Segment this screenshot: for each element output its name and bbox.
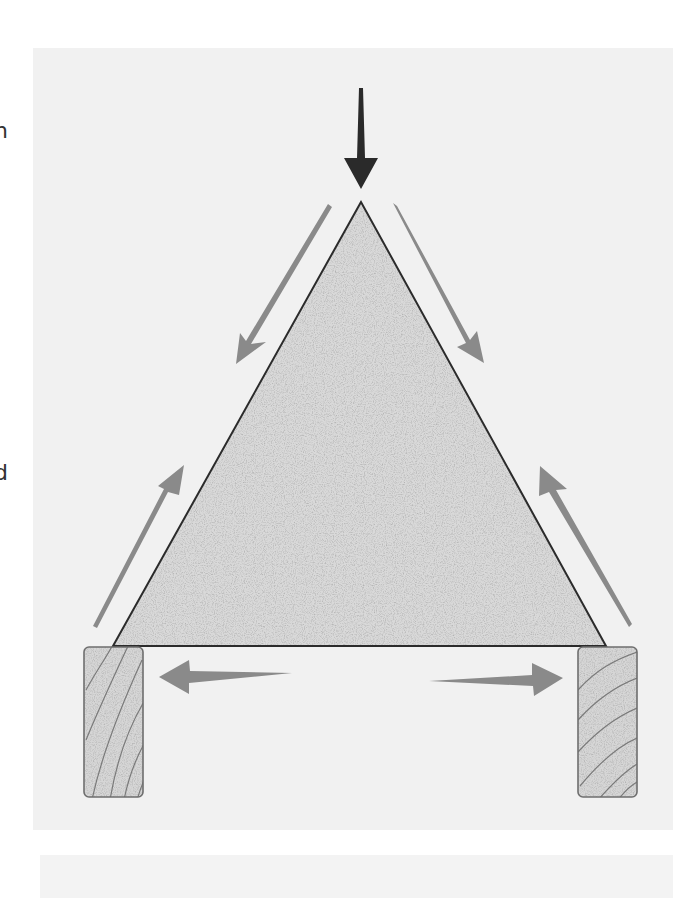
right-support-block — [578, 647, 637, 800]
left-support-block — [84, 646, 146, 800]
truss-diagram — [0, 0, 700, 898]
triangle-block — [113, 202, 606, 646]
load-arrow-icon — [344, 88, 378, 189]
arrow-right-icon — [429, 663, 563, 696]
arrow-left-icon — [159, 660, 292, 694]
